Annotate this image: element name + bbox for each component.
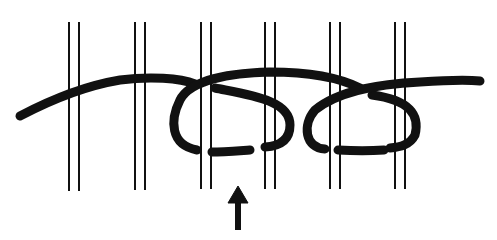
knot-diagram: [0, 0, 497, 240]
weft-strand: [20, 72, 480, 152]
warp-threads: [69, 22, 405, 191]
up-arrow-icon: [228, 186, 248, 230]
